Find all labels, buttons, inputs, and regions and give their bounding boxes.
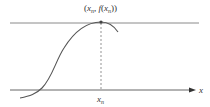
function-curve: [20, 22, 118, 98]
diagram-canvas: (xn, f(xn)) x xn: [0, 0, 210, 107]
point-label: (xn, f(xn)): [84, 3, 117, 14]
x-axis-arrow-icon: [189, 88, 196, 93]
tick-label-xn: xn: [96, 94, 104, 105]
x-axis-label: x: [198, 85, 203, 95]
max-point: [99, 20, 102, 23]
